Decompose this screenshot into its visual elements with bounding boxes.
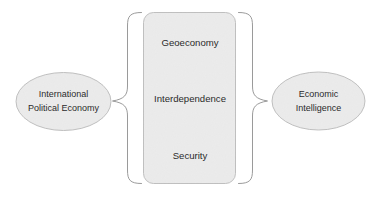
center-box-item-geoeconomy[interactable]: Geoeconomy: [161, 37, 218, 48]
center-box-item-security[interactable]: Security: [173, 150, 208, 161]
left-node-group[interactable]: International Political Economy: [16, 73, 111, 131]
right-node-group[interactable]: Economic Intelligence: [272, 72, 365, 130]
left-brace-group: [113, 13, 142, 184]
center-box-item-interdependence[interactable]: Interdependence: [154, 93, 226, 104]
center-box-group[interactable]: Geoeconomy Interdependence Security: [144, 13, 236, 184]
left-node-ellipse[interactable]: [16, 73, 111, 131]
diagram-svg: International Political Economy Geoecono…: [0, 0, 378, 199]
right-node-label-line2: Intelligence: [296, 103, 342, 113]
left-node-label-line2: Political Economy: [28, 103, 100, 113]
right-curly-brace-icon: [239, 13, 268, 184]
right-node-ellipse[interactable]: [272, 72, 365, 130]
left-curly-brace-icon: [113, 13, 142, 184]
right-brace-group: [239, 13, 268, 184]
left-node-label-line1: International: [39, 89, 89, 99]
diagram-canvas: International Political Economy Geoecono…: [0, 0, 378, 199]
right-node-label-line1: Economic: [299, 89, 339, 99]
